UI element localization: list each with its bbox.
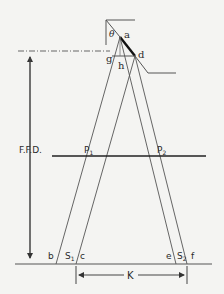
label-s2: S2 [177,251,187,262]
label-p2: P2 [157,145,166,156]
anode-outline [106,20,176,73]
label-k: K [127,270,134,281]
label-g: g [106,53,113,64]
label-b: b [48,251,54,261]
label-d: d [138,49,145,60]
label-a: a [124,29,130,40]
label-s1: S1 [65,251,75,262]
label-h: h [118,60,125,71]
label-c: c [80,251,85,261]
x-ray-beams [56,37,187,264]
label-e: e [166,251,172,261]
diagram-canvas: θ a d g h F.F.D. P1 P2 b S1 c e S2 f K [0,0,224,294]
label-f: f [191,251,195,261]
label-p1: P1 [84,145,93,156]
label-ffd: F.F.D. [19,145,42,155]
label-theta: θ [109,29,115,39]
